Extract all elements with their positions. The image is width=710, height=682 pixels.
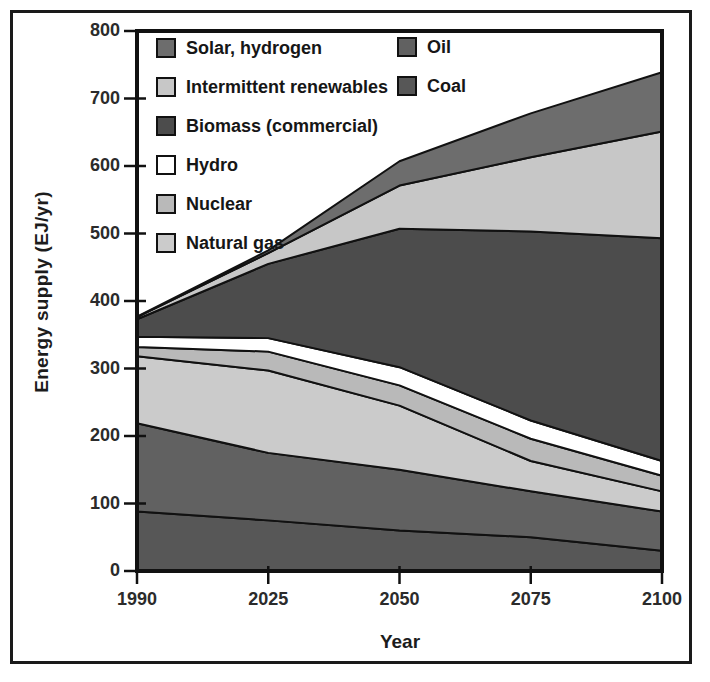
figure: Energy supply (EJ/yr) Year 0100200300400… — [0, 0, 710, 682]
y-tick-label-200: 200 — [68, 425, 120, 446]
y-tick-label-700: 700 — [68, 88, 120, 109]
legend-swatch-oil — [397, 37, 417, 57]
legend-item-nuclear: Nuclear — [156, 193, 252, 215]
legend-swatch-hydro — [156, 155, 176, 175]
legend-item-hydro: Hydro — [156, 154, 238, 176]
legend-item-coal: Coal — [397, 75, 466, 97]
legend-label-hydro: Hydro — [186, 155, 238, 176]
legend-item-oil: Oil — [397, 36, 451, 58]
legend-label-nuclear: Nuclear — [186, 194, 252, 215]
y-tick-label-100: 100 — [68, 493, 120, 514]
x-tick-label-1990: 1990 — [102, 589, 172, 610]
y-tick-label-500: 500 — [68, 223, 120, 244]
legend-swatch-coal — [397, 76, 417, 96]
x-tick-label-2050: 2050 — [365, 589, 435, 610]
y-tick-label-300: 300 — [68, 358, 120, 379]
x-tick-label-2100: 2100 — [627, 589, 697, 610]
y-tick-label-800: 800 — [68, 20, 120, 41]
y-tick-label-400: 400 — [68, 290, 120, 311]
legend-swatch-intermittent-renewables — [156, 77, 176, 97]
y-tick-label-600: 600 — [68, 155, 120, 176]
legend-label-oil: Oil — [427, 37, 451, 58]
legend-label-intermittent-renewables: Intermittent renewables — [186, 77, 388, 98]
legend-swatch-solar-hydrogen — [156, 38, 176, 58]
legend-label-natural-gas: Natural gas — [186, 233, 284, 254]
x-axis-title: Year — [340, 631, 460, 653]
legend-item-biomass-commercial: Biomass (commercial) — [156, 115, 378, 137]
y-axis-title: Energy supply (EJ/yr) — [31, 162, 53, 422]
legend-item-natural-gas: Natural gas — [156, 232, 284, 254]
y-tick-label-0: 0 — [68, 560, 120, 581]
legend-swatch-biomass-commercial — [156, 116, 176, 136]
x-tick-label-2025: 2025 — [233, 589, 303, 610]
legend-swatch-nuclear — [156, 194, 176, 214]
legend-label-biomass-commercial: Biomass (commercial) — [186, 116, 378, 137]
legend-item-solar-hydrogen: Solar, hydrogen — [156, 37, 322, 59]
legend-label-solar-hydrogen: Solar, hydrogen — [186, 38, 322, 59]
x-tick-label-2075: 2075 — [496, 589, 566, 610]
legend-swatch-natural-gas — [156, 233, 176, 253]
legend-label-coal: Coal — [427, 76, 466, 97]
legend-item-intermittent-renewables: Intermittent renewables — [156, 76, 388, 98]
